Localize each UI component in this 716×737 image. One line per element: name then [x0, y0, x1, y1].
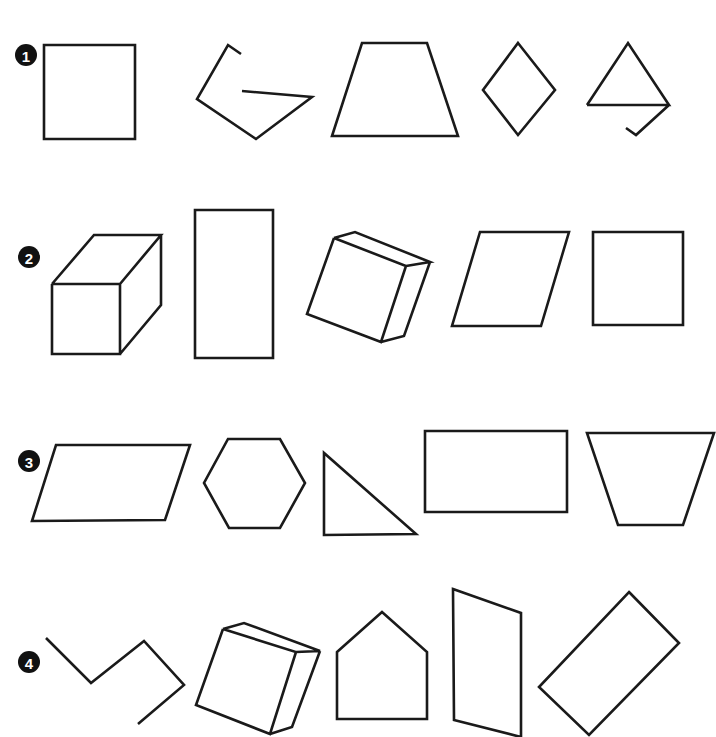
cube-shape [52, 235, 161, 354]
rectangle-shape [425, 431, 567, 512]
parallelogram-shape [452, 232, 569, 326]
square-shape [44, 45, 135, 139]
tilted-box-shape [307, 232, 430, 342]
tilted-box-shape [196, 623, 320, 734]
tall-quadrilateral-shape [453, 589, 521, 737]
row-1: 1 [15, 43, 669, 139]
row-3: 3 [18, 431, 714, 535]
row-number-badge: 2 [18, 246, 40, 268]
trapezoid-shape [332, 43, 458, 136]
house-pentagon-shape [337, 612, 427, 719]
tall-rectangle-shape [195, 210, 273, 358]
parallelogram-shape [32, 445, 190, 521]
open-zigzag-path-shape [46, 638, 184, 724]
row-number-label: 3 [25, 454, 33, 471]
right-triangle-shape [324, 453, 416, 535]
tilted-rectangle-shape [539, 592, 679, 735]
row-number-badge: 4 [18, 651, 40, 673]
open-pentagon-path-shape [197, 45, 312, 139]
row-2: 2 [18, 210, 683, 358]
inverted-trapezoid-shape [587, 433, 714, 525]
hexagon-shape [204, 439, 305, 528]
row-number-badge: 1 [15, 44, 37, 66]
shapes-worksheet: 1234 [0, 0, 716, 737]
row-number-label: 1 [22, 48, 30, 65]
square-shape [593, 232, 683, 325]
rhombus-shape [483, 43, 555, 135]
row-number-label: 4 [25, 655, 34, 672]
row-4: 4 [18, 589, 679, 737]
triangle-with-tail-shape [587, 43, 669, 135]
row-number-badge: 3 [18, 450, 40, 472]
row-number-label: 2 [25, 250, 33, 267]
